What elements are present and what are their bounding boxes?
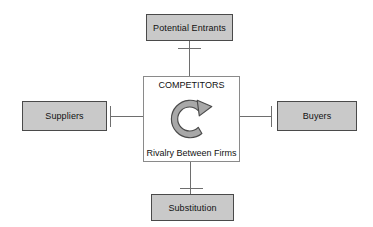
force-label-buyers: Buyers [303, 111, 332, 121]
connector-terminator-bottom [180, 188, 203, 189]
force-label-substitution: Substitution [168, 203, 216, 213]
circular-clockwise-arrow-icon [166, 93, 218, 145]
force-box-potential-entrants[interactable]: Potential Entrants [146, 14, 233, 41]
force-label-suppliers: Suppliers [45, 111, 83, 121]
connector-line-top [189, 41, 190, 76]
diagram-canvas: Potential Entrants Suppliers Buyers Subs… [0, 0, 373, 227]
connector-line-left [110, 116, 143, 117]
center-box-competitors[interactable]: COMPETITORS Rivalry Between Firms [143, 76, 240, 162]
force-box-buyers[interactable]: Buyers [277, 101, 357, 131]
connector-line-bottom [190, 162, 191, 194]
connector-line-right [240, 116, 272, 117]
connector-terminator-top [178, 48, 201, 49]
force-box-substitution[interactable]: Substitution [151, 194, 234, 221]
force-box-suppliers[interactable]: Suppliers [22, 101, 107, 131]
force-label-potential-entrants: Potential Entrants [153, 23, 226, 33]
center-subtitle: Rivalry Between Firms [144, 148, 239, 158]
connector-terminator-left [110, 106, 111, 127]
center-title: COMPETITORS [144, 80, 239, 90]
connector-terminator-right [271, 106, 272, 127]
